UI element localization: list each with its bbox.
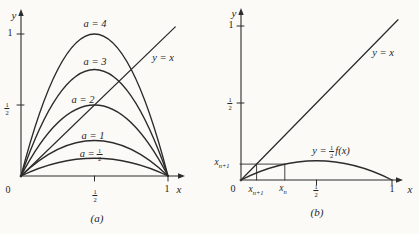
curve-label-a-4: a = 4 [84,19,107,30]
curve-label-a-1: a = 1 [82,131,105,142]
curve-y-1-2-f-x-b [241,161,392,180]
panel-b-y-axis-arrow [238,8,243,15]
panel-a-y-axis-arrow [18,9,23,16]
curve-label-a-2: a = 2 [72,95,95,106]
panel-b-y-label-x-n-plus-1: xn+1 [214,158,229,169]
panel-b-x-axis-arrow [396,177,403,182]
panel-b-x-axis-label: x [408,184,413,195]
panel-b-caption: (b) [311,207,324,218]
panel-b-x-label-x-n: xn [279,184,286,195]
curve-label-a-3: a = 3 [84,57,107,68]
panel-b-origin-label: 0 [231,184,236,194]
panel-a-y-axis-label: y [12,10,17,21]
panel-a-y-tick-label-1: 1 [8,28,13,38]
identity-line-label-a: y = x [152,53,174,64]
panel-b-y-tick-label-1: 1 [229,20,234,30]
panel-b-y-tick-label-half: 12 [227,96,232,112]
panel-b-x-tick-label-1: 1 [390,184,395,194]
panel-a-x-axis-label: x [177,184,182,195]
panel-b-y-axis-label: y [232,8,237,19]
figure: y 1 12 0 12 1 x a = 4 a = 3 a = 2 a = 1 … [0,0,419,234]
identity-line-label-b: y = x [372,48,394,59]
panel-a-caption: (a) [91,213,104,224]
curve-label-half-fx: y =12f(x) [312,144,350,160]
figure-canvas [0,0,419,234]
panel-a-x-tick-label-half: 12 [92,188,97,204]
panel-a-origin-label: 0 [6,185,11,195]
curve-label-a-half: a =12 [80,147,103,163]
panel-a-y-tick-label-half: 12 [4,101,9,117]
panel-b-x-tick-label-half: 12 [313,183,318,199]
panel-b-x-label-x-n-plus-1: xn+1 [248,185,263,196]
panel-a-x-tick-label-1: 1 [165,184,170,194]
panel-a-x-axis-arrow [178,173,185,178]
